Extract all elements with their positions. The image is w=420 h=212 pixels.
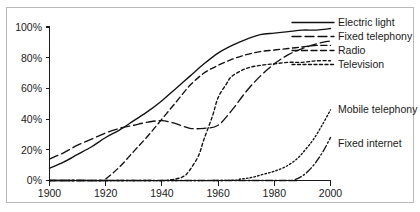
y-tick-label: 80% xyxy=(21,52,42,64)
x-tick-label: 1900 xyxy=(38,187,62,199)
y-tick-label: 40% xyxy=(21,113,42,125)
chart-legend: Electric lightFixed telephonyRadioTelevi… xyxy=(292,16,418,149)
data-series-group xyxy=(50,29,331,181)
y-axis-ticks: 0%20%40%60%80%100% xyxy=(15,21,49,187)
x-axis-ticks: 190019201940196019802000 xyxy=(38,181,343,200)
legend-label-television: Television xyxy=(338,58,384,70)
series-line-television xyxy=(50,61,331,181)
series-line-fixed-telephony xyxy=(50,41,331,159)
x-tick-label: 2000 xyxy=(319,187,343,199)
series-line-electric-light xyxy=(50,29,331,169)
legend-label-radio: Radio xyxy=(338,44,366,56)
series-line-radio xyxy=(50,45,331,180)
x-tick-label: 1940 xyxy=(150,187,174,199)
legend-label-electric-light: Electric light xyxy=(338,16,395,28)
legend-label-fixed-telephony: Fixed telephony xyxy=(338,30,413,42)
series-line-fixed-internet xyxy=(50,138,331,181)
legend-label-mobile-telephony: Mobile telephony xyxy=(338,103,418,115)
y-tick-label: 20% xyxy=(21,144,42,156)
legend-label-fixed-internet: Fixed internet xyxy=(338,137,402,149)
y-tick-label: 60% xyxy=(21,82,42,94)
technology-adoption-line-chart: 0%20%40%60%80%100% 190019201940196019802… xyxy=(0,0,420,212)
chart-figure: 0%20%40%60%80%100% 190019201940196019802… xyxy=(0,0,420,212)
y-tick-label: 100% xyxy=(15,21,42,33)
x-tick-label: 1920 xyxy=(94,187,118,199)
y-tick-label: 0% xyxy=(27,174,42,186)
x-tick-label: 1980 xyxy=(263,187,287,199)
x-tick-label: 1960 xyxy=(206,187,230,199)
